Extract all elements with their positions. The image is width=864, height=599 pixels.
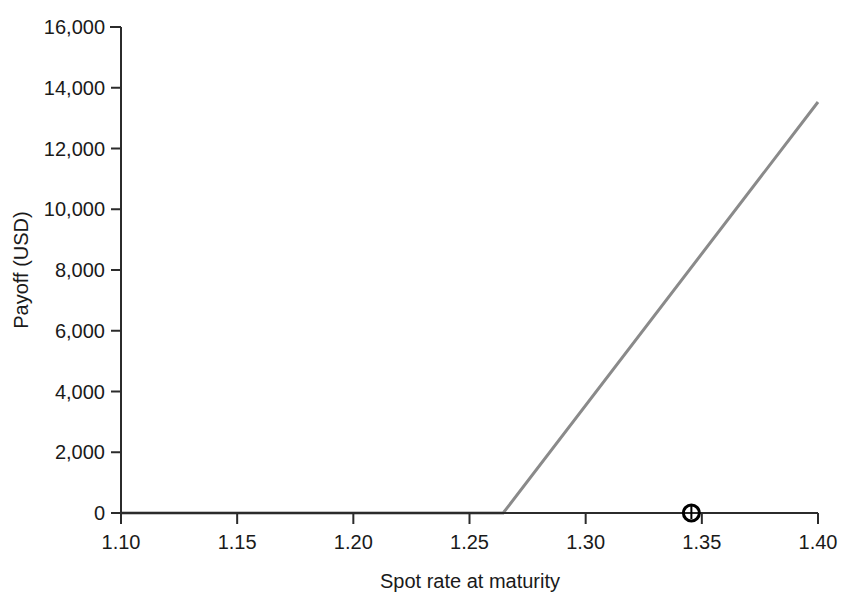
x-tick-label: 1.20 — [334, 531, 373, 553]
y-tick-label: 0 — [94, 502, 105, 524]
payoff-chart: 02,0004,0006,0008,00010,00012,00014,0001… — [0, 0, 864, 599]
x-tick-label: 1.40 — [799, 531, 838, 553]
x-tick-label: 1.10 — [102, 531, 141, 553]
y-tick-label: 4,000 — [55, 381, 105, 403]
y-tick-label: 10,000 — [44, 198, 105, 220]
y-tick-label: 6,000 — [55, 320, 105, 342]
y-axis-title: Payoff (USD) — [10, 211, 32, 328]
x-tick-label: 1.15 — [218, 531, 257, 553]
y-tick-label: 8,000 — [55, 259, 105, 281]
x-axis-title: Spot rate at maturity — [380, 570, 560, 592]
x-tick-label: 1.35 — [682, 531, 721, 553]
chart-background — [0, 0, 864, 599]
y-tick-label: 14,000 — [44, 77, 105, 99]
y-tick-label: 12,000 — [44, 138, 105, 160]
chart-canvas: 02,0004,0006,0008,00010,00012,00014,0001… — [0, 0, 864, 599]
y-tick-label: 16,000 — [44, 16, 105, 38]
x-tick-label: 1.30 — [566, 531, 605, 553]
y-tick-label: 2,000 — [55, 441, 105, 463]
x-tick-label: 1.25 — [450, 531, 489, 553]
